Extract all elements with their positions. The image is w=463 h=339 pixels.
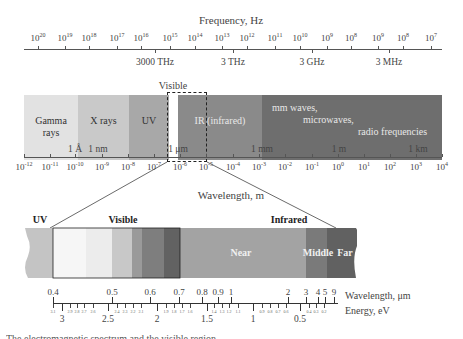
energy-minor-tick	[262, 304, 263, 308]
energy-minor-label: 1.9	[164, 309, 169, 314]
energy-minor-tick	[125, 304, 126, 308]
micrometer-tick-label: 0.9	[212, 287, 223, 297]
energy-minor-tick	[141, 304, 142, 308]
energy-minor-label: 2.2	[131, 309, 136, 314]
energy-minor-tick	[53, 304, 54, 308]
micrometer-tick-label: 5	[323, 287, 328, 297]
energy-major-tick	[300, 304, 301, 311]
energy-minor-label: 0.2	[322, 309, 327, 314]
energy-minor-label: 1.8	[172, 309, 177, 314]
energy-minor-label: 2.4	[115, 309, 120, 314]
energy-minor-label: 1.3	[220, 309, 225, 314]
micrometer-tick-label: 3	[304, 287, 309, 297]
detail-band-orange	[142, 228, 164, 278]
energy-major-label: 2.5	[102, 314, 114, 324]
energy-minor-tick	[190, 304, 191, 308]
energy-minor-tick	[93, 304, 94, 308]
energy-minor-label: 0.8	[268, 309, 273, 314]
energy-minor-tick	[70, 304, 71, 308]
energy-major-tick	[157, 304, 158, 311]
energy-minor-label: 1.1	[236, 309, 241, 314]
detail-band-label: Near	[230, 247, 251, 258]
energy-minor-tick	[84, 304, 85, 308]
energy-minor-label: 0.7	[276, 309, 281, 314]
energy-minor-label: 2.8	[75, 309, 80, 314]
energy-minor-label: 0.4	[307, 309, 312, 314]
energy-minor-label: 2.3	[123, 309, 128, 314]
energy-major-tick	[207, 304, 208, 311]
energy-minor-tick	[133, 304, 134, 308]
energy-minor-tick	[182, 304, 183, 308]
detail-band-violet	[53, 228, 86, 278]
energy-minor-label: 2.6	[91, 309, 96, 314]
micrometer-tick-label: 0.5	[106, 287, 117, 297]
energy-minor-label: 2.1	[139, 309, 144, 314]
energy-minor-tick	[238, 304, 239, 308]
micrometer-tick-label: 0.8	[196, 287, 207, 297]
figure-caption: The electromagnetic spectrum and the vis…	[6, 331, 216, 339]
micrometer-tick-label: 2	[286, 287, 291, 297]
detail-band-uv-edge	[25, 228, 53, 278]
energy-minor-tick	[324, 304, 325, 308]
micrometer-tick-label: 9	[332, 287, 337, 297]
micrometer-tick-label: 0.7	[173, 287, 184, 297]
energy-major-tick	[253, 304, 254, 311]
detail-band-green	[112, 228, 132, 278]
micrometer-tick-label: 1	[229, 287, 234, 297]
energy-minor-tick	[270, 304, 271, 308]
energy-minor-tick	[278, 304, 279, 308]
micrometer-tick-label: 4	[316, 287, 321, 297]
energy-minor-label: 0.9	[260, 309, 265, 314]
energy-minor-tick	[309, 304, 310, 308]
detail-band-yellow	[132, 228, 142, 278]
energy-minor-tick	[229, 304, 230, 308]
energy-minor-tick	[214, 304, 215, 308]
energy-major-label: 2	[155, 314, 160, 324]
energy-minor-tick	[174, 304, 175, 308]
detail-axis-line	[53, 303, 338, 304]
micrometer-tick-label: 0.6	[144, 287, 155, 297]
energy-minor-label: 2.7	[82, 309, 87, 314]
energy-minor-tick	[117, 304, 118, 308]
energy-minor-label: 1.6	[188, 309, 193, 314]
energy-minor-label: 3.1	[51, 309, 56, 314]
detail-band-red	[164, 228, 180, 278]
energy-minor-tick	[166, 304, 167, 308]
energy-major-tick	[62, 304, 63, 311]
micrometer-axis-title: Wavelength, μm	[345, 290, 411, 301]
energy-minor-label: 0.6	[284, 309, 289, 314]
energy-minor-tick	[222, 304, 223, 308]
energy-minor-label: 2.9	[68, 309, 73, 314]
energy-major-tick	[108, 304, 109, 311]
energy-minor-tick	[286, 304, 287, 308]
energy-axis-title: Energy, eV	[345, 305, 390, 316]
detail-band-label: Far	[337, 247, 353, 258]
energy-major-label: 0.5	[294, 314, 306, 324]
energy-minor-label: 1.2	[227, 309, 232, 314]
energy-major-label: 1	[251, 314, 256, 324]
detail-band-label: Middle	[303, 247, 334, 258]
energy-major-label: 3	[60, 314, 65, 324]
energy-minor-tick	[77, 304, 78, 308]
detail-band-blue	[86, 228, 112, 278]
energy-minor-tick	[316, 304, 317, 308]
energy-major-label: 1.5	[201, 314, 213, 324]
micrometer-tick-label: 0.4	[47, 287, 58, 297]
energy-minor-label: 0.3	[314, 309, 319, 314]
energy-minor-label: 1.7	[180, 309, 185, 314]
